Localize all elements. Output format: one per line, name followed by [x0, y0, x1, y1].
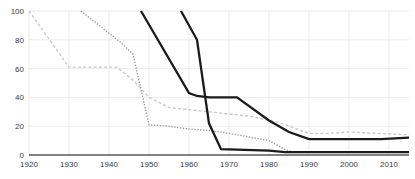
series-line-series-1 [29, 11, 409, 135]
y-axis-tick-label: 100 [11, 7, 25, 16]
y-axis-tick-label: 20 [15, 122, 24, 131]
y-tick-labels-group: 020406080100 [11, 7, 25, 160]
x-axis-tick-label: 1980 [260, 160, 278, 169]
x-axis-tick-label: 1930 [60, 160, 78, 169]
x-axis-tick-label: 1960 [180, 160, 198, 169]
series-line-series-3 [141, 11, 409, 139]
x-axis-tick-label: 1950 [140, 160, 158, 169]
x-axis-tick-label: 1920 [20, 160, 38, 169]
series-group [29, 11, 409, 152]
chart-canvas: 020406080100 192019301940195019601970198… [0, 0, 415, 179]
y-axis-tick-label: 80 [15, 36, 24, 45]
gridlines-group [29, 11, 409, 155]
line-chart: 020406080100 192019301940195019601970198… [0, 0, 415, 179]
y-axis-tick-label: 0 [20, 151, 25, 160]
y-axis-tick-label: 60 [15, 65, 24, 74]
x-axis-tick-label: 2010 [380, 160, 398, 169]
x-axis-tick-label: 1990 [300, 160, 318, 169]
x-axis-tick-label: 1940 [100, 160, 118, 169]
x-axis-tick-label: 1970 [220, 160, 238, 169]
x-tick-labels-group: 1920193019401950196019701980199020002010 [20, 160, 398, 169]
y-axis-tick-label: 40 [15, 93, 24, 102]
x-axis-tick-label: 2000 [340, 160, 358, 169]
series-line-series-2 [81, 11, 409, 152]
